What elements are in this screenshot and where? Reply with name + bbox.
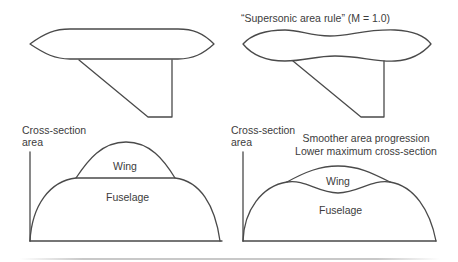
right-chart-fuselage-label: Fuselage: [319, 204, 362, 216]
right-chart-annotation-line2: Lower maximum cross-section: [290, 145, 442, 157]
right-fuselage-outline: [243, 30, 431, 61]
left-chart-y-label-line1: Cross-section: [22, 124, 86, 136]
right-chart-wing-label: Wing: [326, 175, 350, 187]
left-chart-wing-label: Wing: [113, 160, 137, 172]
left-chart-fuselage-curve: [30, 178, 220, 241]
bottom-divider: [20, 258, 440, 260]
left-fuselage-outline: [30, 29, 214, 59]
left-chart-y-label-line2: area: [22, 136, 43, 148]
right-chart-annotation-line1: Smoother area progression: [296, 132, 436, 144]
left-chart-fuselage-label: Fuselage: [106, 191, 149, 203]
right-chart-y-label-line2: area: [231, 136, 252, 148]
right-chart-y-label-line1: Cross-section: [231, 124, 295, 136]
right-panel-heading: “Supersonic area rule” (M = 1.0): [241, 12, 390, 24]
left-wing-outline: [79, 60, 172, 117]
right-wing-outline: [293, 61, 384, 117]
